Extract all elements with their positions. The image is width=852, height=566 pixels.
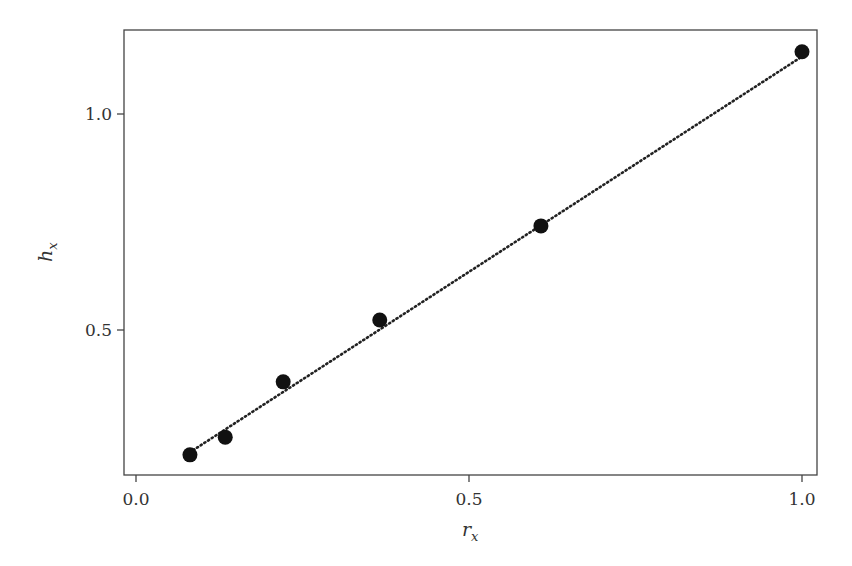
y-tick-label: 0.5 — [85, 320, 112, 340]
x-axis-label: rx — [462, 518, 479, 544]
y-tick-label: 1.0 — [85, 104, 112, 124]
scatter-chart: 0.00.51.0 0.51.0 rx hx — [0, 0, 852, 566]
y-axis-ticks: 0.51.0 — [85, 104, 124, 340]
x-tick-label: 0.5 — [455, 489, 482, 509]
plot-frame — [124, 30, 817, 475]
data-point — [218, 430, 233, 445]
dotted-fit-line — [193, 57, 802, 451]
data-point — [533, 218, 548, 233]
x-tick-label: 1.0 — [788, 489, 815, 509]
fit-line — [193, 57, 802, 451]
data-point — [372, 313, 387, 328]
x-tick-label: 0.0 — [122, 489, 149, 509]
data-point — [276, 374, 291, 389]
data-point — [795, 44, 810, 59]
x-axis-ticks: 0.00.51.0 — [122, 475, 815, 509]
y-axis-label: hx — [34, 242, 60, 262]
data-point — [182, 447, 197, 462]
